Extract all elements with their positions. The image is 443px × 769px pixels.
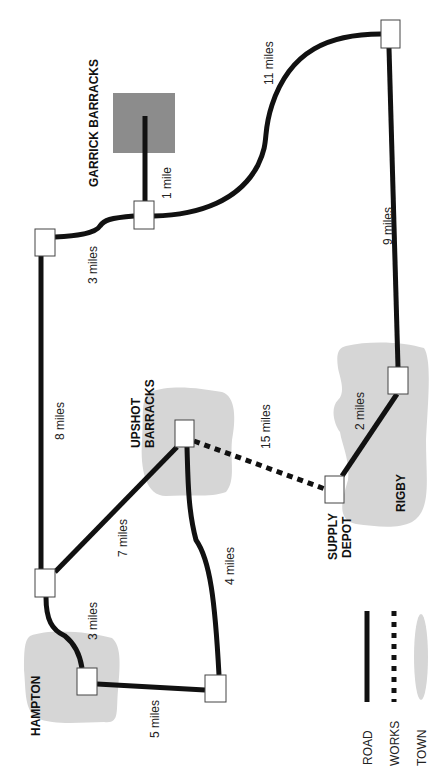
label-supply: SUPPLY [326,513,340,560]
label-2-miles: 2 miles [353,392,367,430]
node-top-right [381,20,400,48]
label-8-miles: 8 miles [53,402,67,440]
node-rigby [388,367,408,394]
label-3-miles-top: 3 miles [86,246,100,284]
node-garrick-junction [134,201,154,229]
label-9-miles: 9 miles [381,207,395,245]
legend-works-label: WORKS [388,721,402,766]
road-3-miles-top [55,216,134,237]
node-top-left [35,229,55,256]
legend-town-label: TOWN [415,730,429,766]
label-4-miles: 4 miles [223,547,237,585]
node-upshot [175,420,194,447]
label-15-miles: 15 miles [259,404,273,449]
label-rigby: RIGBY [394,474,408,512]
town-rigby-area [334,342,429,526]
label-7-miles: 7 miles [116,519,130,557]
node-hampton [77,668,97,695]
node-hampton-junction [35,569,55,597]
label-1-mile: 1 mile [160,167,174,199]
label-garrick-barracks: GARRICK BARRACKS [87,59,101,187]
label-3-miles-bottom: 3 miles [86,602,100,640]
label-depot: DEPOT [340,516,354,558]
label-11-miles: 11 miles [262,41,276,85]
label-5-miles: 5 miles [148,700,162,738]
label-hampton: HAMPTON [29,676,43,736]
label-upshot: UPSHOT [129,397,143,448]
label-barracks: BARRACKS [143,379,157,448]
legend-road-label: ROAD [361,730,375,765]
map-diagram: 11 miles 1 mile 9 miles 3 miles 8 miles … [0,0,443,769]
legend-town-shape [414,614,428,700]
node-supply-depot [325,476,344,503]
node-bottom [205,675,226,702]
